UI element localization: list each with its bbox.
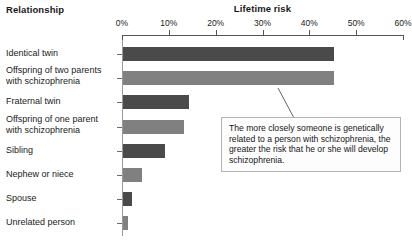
bar (123, 47, 334, 61)
bar (123, 71, 334, 85)
callout-text: The more closely someone is genetically … (229, 123, 390, 165)
x-axis-tick-label: 10% (160, 18, 177, 28)
x-axis-tick-mark (169, 30, 170, 35)
category-tick-mark (117, 199, 122, 200)
x-axis-tick-mark (309, 30, 310, 35)
x-axis-tick-mark (403, 35, 404, 40)
bar (123, 216, 128, 230)
x-axis-tick-label: 40% (301, 18, 318, 28)
x-axis-tick-mark (122, 35, 123, 40)
bar (123, 120, 184, 134)
category-tick-mark (117, 175, 122, 176)
category-tick-mark (117, 151, 122, 152)
bar (123, 95, 189, 109)
bar (123, 192, 132, 206)
callout-box: The more closely someone is genetically … (221, 117, 401, 172)
category-tick-mark (117, 78, 122, 79)
category-label: Identical twin (6, 48, 58, 59)
category-tick-mark (117, 102, 122, 103)
category-label: Offspring of two parents with schizophre… (6, 65, 101, 87)
relationship-column-header: Relationship (6, 4, 64, 15)
category-label: Unrelated person (6, 217, 75, 228)
x-axis-tick-mark (356, 30, 357, 35)
x-axis-line (122, 35, 403, 36)
callout-leader-line (265, 84, 305, 120)
x-axis-tick-label: 50% (348, 18, 365, 28)
x-axis-tick-label: 60% (394, 18, 411, 28)
x-axis-tick-mark (263, 30, 264, 35)
category-label: Fraternal twin (6, 96, 61, 107)
category-label: Spouse (6, 193, 37, 204)
chart-title: Lifetime risk (122, 3, 403, 14)
category-label: Nephew or niece (6, 169, 74, 180)
chart-container: Relationship Lifetime risk 0%10%20%30%40… (0, 0, 412, 240)
bar (123, 144, 165, 158)
x-axis-tick-label: 20% (207, 18, 224, 28)
x-axis-tick-label: 30% (254, 18, 271, 28)
bar (123, 168, 142, 182)
category-label: Sibling (6, 145, 33, 156)
x-axis-tick-mark (216, 30, 217, 35)
category-tick-mark (117, 223, 122, 224)
category-tick-mark (117, 54, 122, 55)
category-label: Offspring of one parent with schizophren… (6, 114, 98, 136)
category-tick-mark (117, 127, 122, 128)
x-axis-tick-label: 0% (116, 18, 128, 28)
